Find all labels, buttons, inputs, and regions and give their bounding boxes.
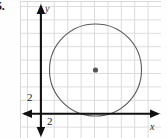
circle-center-point bbox=[93, 67, 98, 72]
x-axis-label: x bbox=[150, 121, 154, 132]
figure-container: 5. bbox=[0, 0, 167, 138]
problem-number: 5. bbox=[0, 0, 4, 13]
axes bbox=[24, 11, 152, 130]
y-axis-tick-label-2: 2 bbox=[27, 91, 33, 103]
x-axis-arrow-right bbox=[150, 109, 160, 118]
coordinate-plane bbox=[21, 2, 161, 138]
x-axis-tick-label-2: 2 bbox=[47, 115, 53, 127]
y-axis-label: y bbox=[45, 3, 49, 14]
y-axis-arrow-down bbox=[37, 127, 46, 137]
graph-frame bbox=[20, 1, 161, 138]
y-axis-arrow-up bbox=[37, 4, 46, 14]
grid-lines bbox=[21, 2, 161, 138]
